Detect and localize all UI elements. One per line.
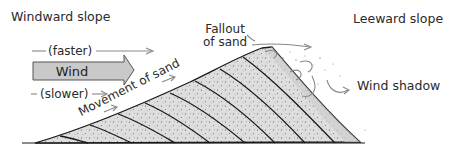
fallout-arrow xyxy=(247,35,311,50)
sand-dune-diagram: Windward slope Leeward slope (faster) Wi… xyxy=(0,0,457,156)
wind-label: Wind xyxy=(37,65,107,78)
windward-slope-label: Windward slope xyxy=(11,11,110,24)
slower-label: (slower) xyxy=(40,88,88,100)
fallout-of-sand-label: Fallout of sand xyxy=(203,23,247,49)
leeward-slope-label: Leeward slope xyxy=(353,13,443,26)
faster-label: (faster) xyxy=(48,45,92,57)
fallout-line-2: of sand xyxy=(203,36,247,49)
wind-shadow-label: Wind shadow xyxy=(357,80,440,93)
